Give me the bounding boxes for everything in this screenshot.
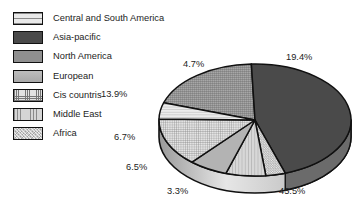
legend-swatch-icon: [13, 70, 43, 83]
legend-item-label: North America: [53, 52, 112, 61]
legend-item-label: Cis countris: [53, 91, 102, 100]
legend-swatch-icon: [13, 50, 43, 63]
legend-item-label: Middle East: [53, 110, 102, 119]
legend-item-label: European: [53, 72, 93, 81]
pie-chart-svg: [152, 52, 358, 202]
legend-swatch-icon: [13, 31, 43, 44]
pie-slices: [159, 64, 351, 176]
pie-value-label: 3.3%: [167, 187, 188, 196]
legend-swatch-icon: [13, 108, 43, 121]
pie-value-label: 19.4%: [286, 53, 312, 62]
pie-value-label: 4.7%: [183, 60, 204, 69]
pie-value-label: 6.7%: [114, 133, 135, 142]
legend-swatch-icon: [13, 127, 43, 140]
legend-item-label: Central and South America: [53, 14, 164, 23]
pie-value-label: 45.5%: [279, 187, 305, 196]
pie-chart: [152, 52, 358, 202]
legend-swatch-icon: [13, 89, 43, 102]
legend-item-label: Asia-pacific: [53, 33, 101, 42]
pie-value-label: 6.5%: [126, 163, 147, 172]
pie-value-label: 13.9%: [101, 90, 127, 99]
legend-item: Central and South America: [13, 9, 193, 28]
legend-item: Asia-pacific: [13, 28, 193, 47]
legend-item-label: Africa: [53, 129, 77, 138]
legend-swatch-icon: [13, 12, 43, 25]
